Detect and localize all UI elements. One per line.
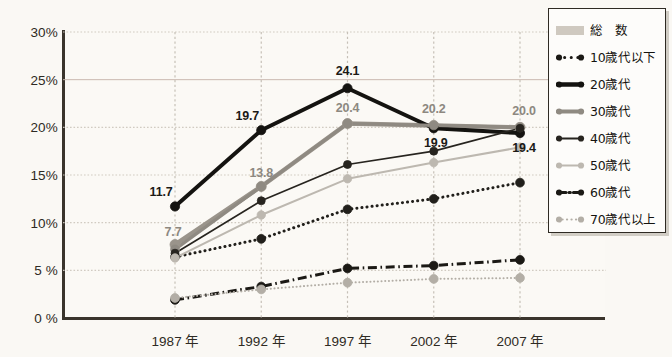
legend-item-6[interactable]: 50歳代 [549,151,665,178]
legend-swatch-icon [556,23,586,37]
x-tick-label: 1992 年 [238,330,285,350]
data-point-label: 19.7 [235,109,259,123]
data-point-label: 19.9 [424,136,448,150]
legend-item-label: 60歳代 [590,182,631,201]
legend-swatch-icon [556,77,586,91]
legend-item-label: 20歳代 [590,74,631,93]
legend-item-label: 40歳代 [590,128,631,147]
data-point-label: 20.4 [336,101,360,115]
x-tick-label: 2002 年 [410,330,457,350]
legend-item-label: 50歳代 [590,155,631,174]
data-point-label: 19.4 [512,141,536,155]
legend-swatch-icon [556,104,586,118]
series-markers [170,84,525,305]
x-tick-label: 2007 年 [497,330,544,350]
legend-item-3[interactable]: 20歳代 [549,70,665,97]
data-point-label: 11.7 [150,185,173,199]
legend-swatch-icon [556,212,586,226]
legend-swatch-icon [556,158,586,172]
gridlines [63,32,606,318]
legend-item-7[interactable]: 60歳代 [549,178,665,205]
legend-item-label: 70歳代以上 [590,209,656,228]
legend-item-label: 10歳代以下 [590,47,656,66]
data-point-label: 20.0 [512,104,536,118]
x-tick-label: 1987 年 [152,330,199,350]
legend-item-label: 総 数 [590,20,628,39]
legend-item-label: 30歳代 [590,101,631,120]
legend-item-8[interactable]: 70歳代以上 [549,205,665,232]
legend-item-2[interactable]: 10歳代以下 [549,43,665,70]
legend-item-5[interactable]: 40歳代 [549,124,665,151]
legend-item-1[interactable]: 総 数 [549,16,665,43]
x-tick-label: 1997 年 [324,330,371,350]
data-point-label: 20.2 [422,102,446,116]
legend-swatch-icon [556,50,586,64]
chart-root: 0 %5 %10%15%20%25%30% 1987 年1992 年1997 年… [0,0,672,357]
data-point-label: 13.8 [249,166,273,180]
legend-swatch-icon [556,185,586,199]
legend-swatch-icon [556,131,586,145]
legend-item-4[interactable]: 30歳代 [549,97,665,124]
legend: 総 数10歳代以下20歳代30歳代40歳代50歳代60歳代70歳代以上 [548,8,666,233]
data-point-label: 7.7 [165,225,182,239]
data-point-label: 24.1 [336,64,360,78]
x-axis-labels: 1987 年1992 年1997 年2002 年2007 年 [0,330,672,354]
